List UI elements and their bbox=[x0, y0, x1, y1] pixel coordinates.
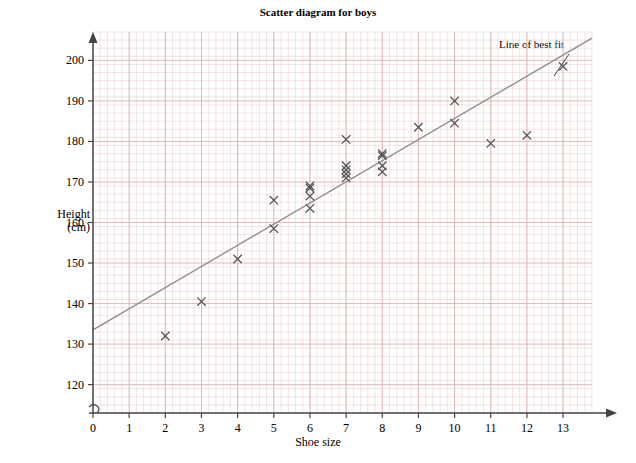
x-tick-label: 8 bbox=[379, 421, 385, 435]
x-tick-label: 7 bbox=[343, 421, 349, 435]
y-axis-arrow bbox=[89, 32, 98, 43]
x-tick-label: 2 bbox=[162, 421, 168, 435]
best-fit-line bbox=[93, 38, 592, 330]
x-tick-label: 0 bbox=[90, 421, 96, 435]
y-tick-label: 150 bbox=[66, 256, 84, 270]
scatter-chart: Scatter diagram for boys Height (cm) Sho… bbox=[0, 0, 636, 463]
grid-major bbox=[93, 32, 592, 413]
axes bbox=[89, 32, 618, 418]
y-axis-break-icon bbox=[89, 405, 99, 413]
tick-labels: 0123456789101112131201301401501601701801… bbox=[66, 53, 569, 435]
x-tick-label: 9 bbox=[415, 421, 421, 435]
y-tick-label: 170 bbox=[66, 175, 84, 189]
y-tick-label: 120 bbox=[66, 378, 84, 392]
x-tick-label: 10 bbox=[449, 421, 461, 435]
x-tick-label: 1 bbox=[126, 421, 132, 435]
x-tick-label: 13 bbox=[557, 421, 569, 435]
x-tick-label: 4 bbox=[235, 421, 241, 435]
y-tick-label: 160 bbox=[66, 216, 84, 230]
y-tick-label: 200 bbox=[66, 53, 84, 67]
x-tick-label: 11 bbox=[485, 421, 497, 435]
plot-area: 0123456789101112131201301401501601701801… bbox=[0, 0, 636, 463]
y-tick-label: 140 bbox=[66, 297, 84, 311]
data-points bbox=[161, 62, 567, 340]
x-axis-arrow bbox=[606, 409, 617, 418]
x-tick-label: 6 bbox=[307, 421, 313, 435]
y-tick-label: 130 bbox=[66, 337, 84, 351]
y-tick-label: 190 bbox=[66, 94, 84, 108]
x-tick-label: 12 bbox=[521, 421, 533, 435]
x-tick-label: 3 bbox=[198, 421, 204, 435]
y-tick-label: 180 bbox=[66, 134, 84, 148]
x-tick-label: 5 bbox=[271, 421, 277, 435]
